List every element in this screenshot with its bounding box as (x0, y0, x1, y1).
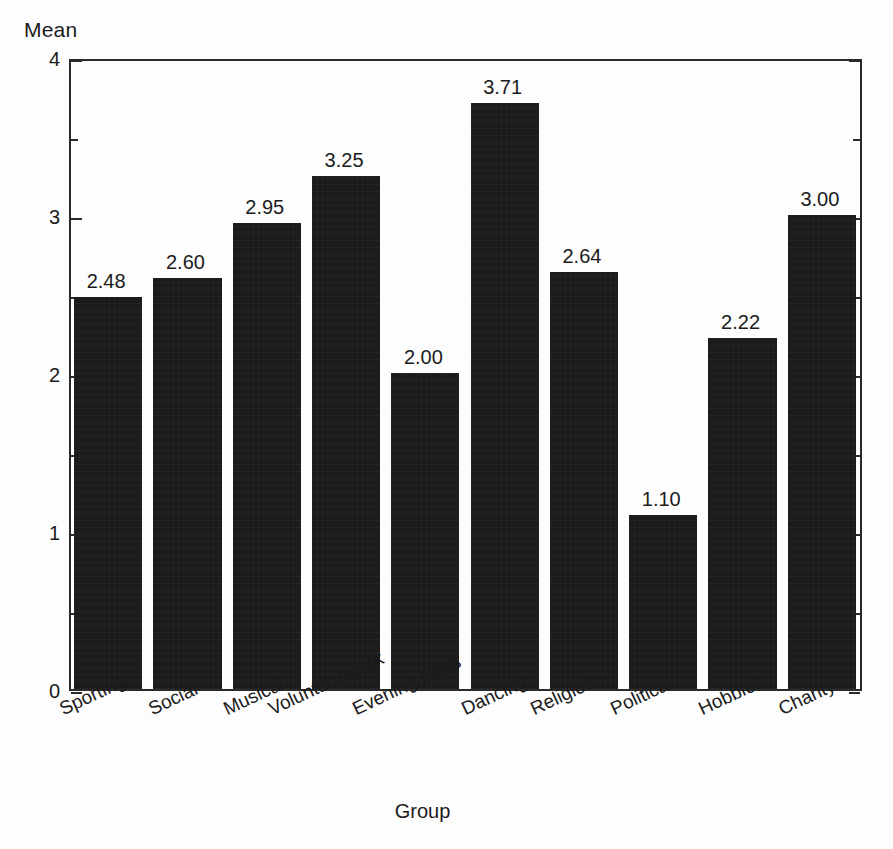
bar (74, 297, 142, 689)
x-axis-title: Group (0, 800, 893, 823)
chart-screenshot: Mean 01234 2.482.602.953.252.003.712.641… (0, 0, 893, 849)
y-tick-label: 3 (20, 206, 60, 229)
y-tick-label: 0 (20, 680, 60, 703)
bar (550, 272, 618, 689)
y-axis-tick (849, 692, 860, 694)
bar (788, 215, 856, 689)
y-axis-title: Mean (24, 18, 77, 42)
bar-value-label: 3.25 (325, 149, 364, 172)
bar-value-label: 1.10 (642, 488, 681, 511)
bar-value-label: 2.60 (166, 251, 205, 274)
y-tick-label: 1 (20, 522, 60, 545)
bar-value-label: 2.22 (721, 311, 760, 334)
bar-value-label: 2.00 (404, 346, 443, 369)
y-axis-minor-tick (71, 139, 78, 141)
y-tick-label: 4 (20, 48, 60, 71)
bar-value-label: 2.95 (245, 196, 284, 219)
bar (391, 373, 459, 689)
plot-area (69, 59, 862, 691)
bar-value-label: 3.00 (800, 188, 839, 211)
bar-value-label: 2.48 (87, 270, 126, 293)
bar (708, 338, 776, 689)
y-axis-tick (71, 60, 82, 62)
bar (629, 515, 697, 689)
bar (471, 103, 539, 689)
bar (233, 223, 301, 689)
bar-value-label: 2.64 (562, 245, 601, 268)
y-axis-tick (849, 60, 860, 62)
y-axis-tick (71, 218, 82, 220)
bar-value-label: 3.71 (483, 76, 522, 99)
y-axis-minor-tick (853, 139, 860, 141)
y-tick-label: 2 (20, 364, 60, 387)
bar (153, 278, 221, 689)
x-axis-title-text: Group (395, 800, 451, 823)
bar (312, 176, 380, 690)
